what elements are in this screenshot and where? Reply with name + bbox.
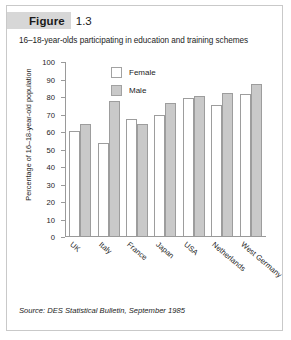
bar-male — [80, 124, 91, 236]
y-axis-tick: 40 — [61, 167, 65, 168]
bar-female — [154, 115, 165, 236]
y-axis-tick: 100 — [61, 62, 65, 63]
bar-group — [180, 62, 208, 236]
bar-female — [69, 131, 80, 236]
bar-male — [194, 96, 205, 236]
legend-swatch-male-icon — [111, 85, 122, 96]
bar-male — [137, 124, 148, 236]
bar-female — [98, 143, 109, 236]
bar-male — [222, 93, 233, 237]
figure-badge-label: Figure — [29, 15, 65, 27]
figure-source: Source: DES Statistical Bulletin, Septem… — [19, 306, 185, 315]
legend-label-male: Male — [129, 86, 146, 95]
y-axis-tick-label: 80 — [47, 93, 55, 102]
bar-female — [126, 119, 137, 236]
y-axis-tick-label: 50 — [47, 145, 55, 154]
x-axis-label: Japan — [154, 240, 176, 260]
y-axis-tick: 50 — [61, 150, 65, 151]
figure-badge: Figure — [7, 12, 71, 29]
bar-male — [165, 103, 176, 236]
chart-legend: Female Male — [111, 66, 156, 102]
y-axis-tick-label: 90 — [47, 75, 55, 84]
y-axis-tick: 20 — [61, 202, 65, 203]
x-axis-label: UK — [68, 240, 82, 254]
x-axis-labels: UKItalyFranceJapanUSANetherlandsWest Ger… — [65, 240, 265, 296]
y-axis-tick: 30 — [61, 185, 65, 186]
figure-header: Figure 1.3 — [7, 12, 92, 29]
chart-area: Percentage of 16–18-year-old population … — [7, 50, 282, 298]
bar-female — [240, 94, 251, 236]
x-axis-label: Italy — [97, 240, 113, 256]
bar-group — [66, 62, 94, 236]
bar-group — [208, 62, 236, 236]
legend-label-female: Female — [129, 68, 156, 77]
figure-number: 1.3 — [71, 15, 92, 27]
y-axis-tick-label: 0 — [51, 233, 55, 242]
y-axis-tick-label: 30 — [47, 180, 55, 189]
x-axis-line — [65, 236, 266, 237]
y-axis-tick-label: 40 — [47, 163, 55, 172]
y-axis-tick-label: 70 — [47, 110, 55, 119]
y-axis-tick: 0 — [61, 237, 65, 238]
x-axis-label: France — [125, 240, 149, 262]
legend-swatch-female-icon — [111, 67, 122, 78]
y-axis-tick-label: 20 — [47, 198, 55, 207]
y-axis-tick: 90 — [61, 80, 65, 81]
legend-item-female: Female — [111, 66, 156, 79]
legend-item-male: Male — [111, 84, 156, 97]
bar-group — [237, 62, 265, 236]
x-axis-label: USA — [182, 240, 200, 257]
y-axis-tick: 10 — [61, 220, 65, 221]
figure-subtitle: 16–18-year-olds participating in educati… — [19, 36, 277, 45]
bar-male — [109, 101, 120, 236]
x-axis-label: West Germany — [239, 240, 283, 279]
bar-male — [251, 84, 262, 236]
y-axis-tick-label: 100 — [42, 58, 55, 67]
y-axis-tick-label: 10 — [47, 215, 55, 224]
plot-area: 0102030405060708090100 — [65, 62, 265, 237]
bar-female — [211, 105, 222, 236]
y-axis-tick-label: 60 — [47, 128, 55, 137]
y-axis-title: Percentage of 16–18-year-old population — [24, 50, 33, 220]
figure-card: Figure 1.3 16–18-year-olds participating… — [6, 5, 283, 331]
bar-groups — [66, 62, 265, 236]
y-axis-tick: 80 — [61, 97, 65, 98]
bar-female — [183, 98, 194, 236]
y-axis-tick: 60 — [61, 132, 65, 133]
y-axis-tick: 70 — [61, 115, 65, 116]
